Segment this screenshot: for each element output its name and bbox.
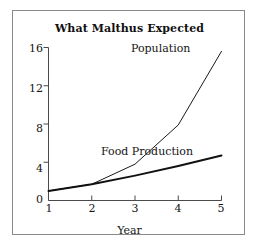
data-line-food-production — [49, 156, 222, 191]
plot-area — [13, 11, 246, 236]
y-axis-ticks — [44, 48, 49, 163]
chart-figure-frame: What Malthus Expected 16 12 8 4 0 1 2 3 … — [12, 10, 245, 235]
data-line-population — [49, 51, 222, 191]
x-axis-ticks — [49, 196, 222, 201]
